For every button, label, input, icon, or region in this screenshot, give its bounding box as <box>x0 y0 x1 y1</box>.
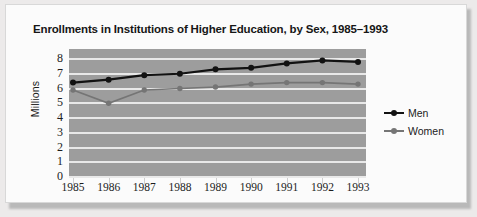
y-tick-label: 5 <box>47 95 63 110</box>
x-tick-mark <box>180 178 181 184</box>
chart-legend: MenWomen <box>384 104 444 140</box>
data-point-men <box>106 77 112 83</box>
data-point-men <box>141 72 147 78</box>
y-tick-label: 6 <box>47 81 63 96</box>
data-point-men <box>355 59 361 65</box>
plot-area <box>69 49 366 178</box>
x-tick-mark <box>251 178 252 184</box>
y-tick-label: 2 <box>47 140 63 155</box>
x-tick-mark <box>73 178 74 184</box>
x-tick-mark <box>109 178 110 184</box>
figure-card: Enrollments in Institutions of Higher Ed… <box>5 4 467 203</box>
data-point-men <box>319 57 325 63</box>
data-point-women <box>177 86 182 91</box>
data-point-women <box>106 101 111 106</box>
x-tick-mark <box>216 178 217 184</box>
y-tick-label: 3 <box>47 125 63 140</box>
y-tick-label: 8 <box>47 51 63 66</box>
x-tick-mark <box>287 178 288 184</box>
legend-label: Women <box>408 125 444 137</box>
x-tick-mark <box>144 178 145 184</box>
data-point-women <box>248 81 253 86</box>
legend-marker-icon <box>384 125 404 137</box>
data-point-women <box>355 81 360 86</box>
data-point-men <box>70 80 76 86</box>
data-series-layer <box>69 49 366 178</box>
data-point-men <box>284 60 290 66</box>
data-point-women <box>213 84 218 89</box>
y-tick-label: 4 <box>47 110 63 125</box>
y-axis-title: Millions <box>29 64 41 134</box>
legend-label: Men <box>408 107 428 119</box>
y-tick-label: 7 <box>47 66 63 81</box>
data-point-men <box>248 65 254 71</box>
x-tick-mark <box>322 178 323 184</box>
x-tick-mark <box>358 178 359 184</box>
data-point-women <box>70 87 75 92</box>
data-point-women <box>320 80 325 85</box>
legend-item-men[interactable]: Men <box>384 104 444 122</box>
chart-title: Enrollments in Institutions of Higher Ed… <box>33 23 453 35</box>
legend-item-women[interactable]: Women <box>384 122 444 140</box>
data-point-women <box>142 87 147 92</box>
data-point-men <box>177 71 183 77</box>
legend-marker-icon <box>384 107 404 119</box>
y-tick-label: 1 <box>47 154 63 169</box>
data-point-women <box>284 80 289 85</box>
data-point-men <box>213 66 219 72</box>
screenshot-root: Enrollments in Institutions of Higher Ed… <box>0 0 477 217</box>
